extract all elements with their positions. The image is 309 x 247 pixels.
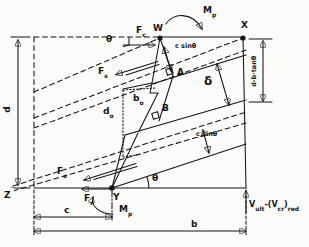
label-force-fc: Fc [136, 26, 146, 37]
dashed-trajectory-lines [13, 38, 246, 191]
label-point-z: Z [4, 191, 11, 200]
angle-marks [124, 38, 150, 189]
stirrup-force-arrows [84, 62, 159, 181]
label-crack-b: B [162, 104, 169, 113]
crack-path [112, 38, 173, 188]
label-point-w: W [153, 24, 163, 33]
label-force-fs-upper: Fs [98, 67, 108, 78]
shear-truss-model-figure: W X Y Z A B Fc Fs Fs Fr Mp Mp Vult-(Vcr)… [0, 0, 309, 247]
label-dim-bo: bo [133, 94, 144, 105]
label-dim-do: do [103, 107, 114, 118]
label-dim-b: b [191, 220, 197, 229]
label-point-x: X [241, 21, 248, 30]
label-angle-theta-top: θ [106, 35, 112, 44]
beam-outline [34, 37, 246, 188]
label-moment-mp-bottom: Mp [119, 205, 132, 216]
label-dim-c: c [64, 206, 69, 215]
label-moment-mp-top: Mp [203, 6, 216, 17]
label-force-fr: Fr [84, 194, 93, 205]
label-crack-a: A [177, 68, 184, 77]
label-dim-c-sin-theta-upper: c sinθ [175, 43, 196, 50]
label-dim-c-sin-theta-lower: c sinθ [196, 131, 217, 138]
label-angle-theta-bottom: θ [152, 174, 158, 183]
label-dim-d: d [3, 104, 12, 116]
label-reaction-v: Vult-(Vcr)red [249, 201, 299, 211]
label-dim-d-minus-b-tan-theta: d-b·tanθ [251, 43, 258, 99]
label-point-y: Y [113, 193, 120, 202]
label-force-fs-lower: Fs [57, 167, 67, 178]
label-dim-delta: δ [204, 75, 212, 87]
